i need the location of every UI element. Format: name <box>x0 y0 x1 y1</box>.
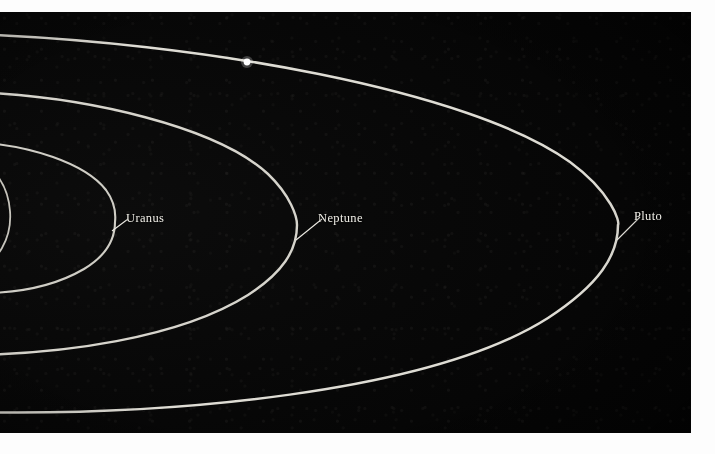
orbit-path-saturn <box>0 162 10 273</box>
orbit-path-uranus <box>0 142 115 293</box>
diagram-plate: Uranus Neptune Pluto <box>0 12 691 433</box>
planet-marker-pluto <box>244 59 251 66</box>
figure-root: Uranus Neptune Pluto <box>0 0 715 454</box>
orbit-label-pluto: Pluto <box>634 209 662 224</box>
orbit-label-neptune: Neptune <box>318 211 363 226</box>
orbit-path-pluto <box>0 34 618 412</box>
orbit-label-uranus: Uranus <box>126 211 164 226</box>
